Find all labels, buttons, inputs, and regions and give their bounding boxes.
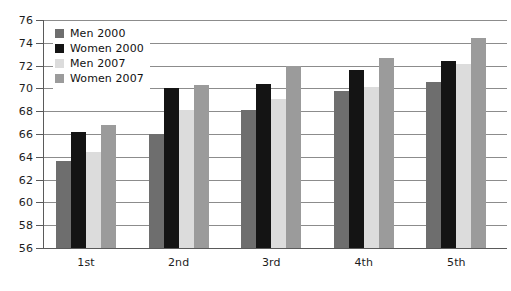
bar-4th-women-2007 — [379, 58, 394, 248]
bar-1st-women-2007 — [101, 125, 116, 248]
x-axis-label-5th: 5th — [447, 256, 466, 269]
y-tick-76 — [36, 20, 44, 21]
y-tick-60 — [36, 202, 44, 203]
legend-label: Women 2007 — [70, 72, 144, 85]
legend-label: Men 2007 — [70, 57, 126, 70]
legend-label: Women 2000 — [70, 42, 144, 55]
y-tick-68 — [36, 111, 44, 112]
y-axis-label-76: 76 — [3, 14, 33, 27]
bar-4th-women-2000 — [349, 70, 364, 248]
bar-1st-men-2000 — [56, 161, 71, 248]
bar-2nd-women-2007 — [194, 85, 209, 248]
bar-chart: 5658606264666870727476 1st2nd3rd4th5th M… — [0, 0, 511, 291]
bar-3rd-men-2007 — [271, 99, 286, 248]
y-tick-56 — [36, 248, 44, 249]
bar-1st-women-2000 — [71, 132, 86, 248]
y-axis-label-72: 72 — [3, 59, 33, 72]
y-axis-label-62: 62 — [3, 173, 33, 186]
bar-5th-women-2007 — [471, 38, 486, 248]
y-tick-64 — [36, 157, 44, 158]
y-axis-label-56: 56 — [3, 242, 33, 255]
legend-item-men-2007: Men 2007 — [55, 56, 144, 70]
legend-item-men-2000: Men 2000 — [55, 26, 144, 40]
x-axis-label-3rd: 3rd — [262, 256, 281, 269]
y-axis-label-60: 60 — [3, 196, 33, 209]
legend-swatch-icon — [55, 74, 64, 83]
y-tick-70 — [36, 88, 44, 89]
y-axis-label-66: 66 — [3, 128, 33, 141]
bar-4th-men-2000 — [334, 91, 349, 248]
x-axis-label-2nd: 2nd — [168, 256, 189, 269]
x-axis-label-1st: 1st — [77, 256, 94, 269]
bar-5th-men-2000 — [426, 82, 441, 248]
bar-1st-men-2007 — [86, 152, 101, 248]
y-tick-58 — [36, 225, 44, 226]
bar-2nd-men-2007 — [179, 110, 194, 248]
x-axis-line — [43, 248, 507, 249]
bar-3rd-women-2007 — [286, 66, 301, 248]
legend-swatch-icon — [55, 29, 64, 38]
bar-3rd-men-2000 — [241, 110, 256, 248]
y-axis-label-64: 64 — [3, 150, 33, 163]
y-tick-72 — [36, 66, 44, 67]
legend-item-women-2000: Women 2000 — [55, 41, 144, 55]
legend-swatch-icon — [55, 44, 64, 53]
bar-5th-men-2007 — [456, 64, 471, 248]
bar-2nd-women-2000 — [164, 88, 179, 248]
bar-2nd-men-2000 — [149, 134, 164, 248]
bar-3rd-women-2000 — [256, 84, 271, 248]
legend-swatch-icon — [55, 59, 64, 68]
y-axis-label-58: 58 — [3, 219, 33, 232]
y-axis-label-70: 70 — [3, 82, 33, 95]
y-axis-label-68: 68 — [3, 105, 33, 118]
y-axis-label-74: 74 — [3, 36, 33, 49]
legend-label: Men 2000 — [70, 27, 126, 40]
bar-4th-men-2007 — [364, 87, 379, 248]
chart-legend: Men 2000Women 2000Men 2007Women 2007 — [53, 24, 150, 89]
legend-item-women-2007: Women 2007 — [55, 71, 144, 85]
y-tick-62 — [36, 180, 44, 181]
y-tick-74 — [36, 43, 44, 44]
bar-5th-women-2000 — [441, 61, 456, 248]
y-tick-66 — [36, 134, 44, 135]
x-axis-label-4th: 4th — [355, 256, 374, 269]
